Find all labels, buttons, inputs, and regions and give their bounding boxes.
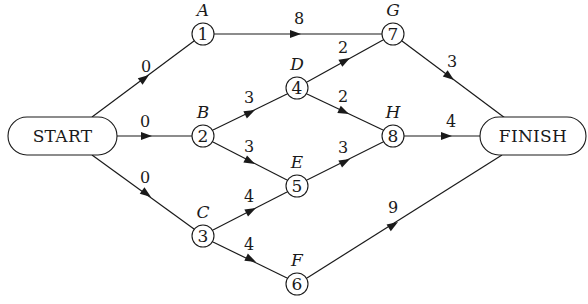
task-label: F <box>290 250 304 270</box>
task-label: A <box>195 0 209 20</box>
edge-weight: 3 <box>244 137 254 156</box>
edge-weight: 9 <box>388 198 398 217</box>
task-label: D <box>289 54 304 74</box>
arrowhead-icon <box>443 70 457 83</box>
edge-weight: 2 <box>338 87 348 106</box>
arrowhead-icon <box>244 254 257 266</box>
edge-weight: 4 <box>446 112 456 131</box>
edge-4-7: 2 <box>307 38 383 82</box>
edge-weight: 0 <box>140 112 150 131</box>
finish-label: FINISH <box>499 126 567 146</box>
node-number: 8 <box>388 126 399 146</box>
node-number: 5 <box>292 176 303 196</box>
edge-weight: 0 <box>140 168 150 187</box>
node-6: 6 F <box>286 250 308 295</box>
edge-start-1: 0 <box>92 41 194 117</box>
arrowhead-icon <box>338 155 351 167</box>
node-1: 1 A <box>192 0 214 45</box>
arrowhead-icon <box>244 204 257 216</box>
task-label: B <box>196 102 210 122</box>
start-terminal: START <box>8 117 117 155</box>
edge-weight: 0 <box>141 57 151 76</box>
edge-5-8: 3 <box>307 138 383 180</box>
node-number: 3 <box>198 226 209 246</box>
arrowhead-icon <box>337 106 350 118</box>
edge-start-2: 0 <box>117 112 192 140</box>
edge-1-7: 8 <box>214 9 382 38</box>
node-2: 2 B <box>192 102 214 147</box>
node-number: 2 <box>198 126 209 146</box>
edge-3-5: 4 <box>213 187 287 230</box>
node-number: 1 <box>198 24 209 44</box>
edge-weight: 4 <box>244 187 254 206</box>
edge-8-finish: 4 <box>404 112 480 140</box>
edge-4-8: 2 <box>307 87 383 130</box>
arrowhead-icon <box>243 155 256 167</box>
edge-weight: 3 <box>244 88 254 107</box>
node-7: 7 G <box>382 0 404 45</box>
start-label: START <box>33 126 93 146</box>
node-4: 4 D <box>286 54 308 99</box>
edge-7-finish: 3 <box>402 41 505 118</box>
node-number: 6 <box>292 274 303 294</box>
edge-weight: 3 <box>447 52 457 71</box>
arrowhead-icon <box>243 106 256 118</box>
task-label: G <box>386 0 400 20</box>
node-number: 7 <box>388 24 399 44</box>
arrowhead-icon <box>290 30 301 38</box>
edge-start-3: 0 <box>92 155 194 229</box>
task-label: E <box>290 152 304 172</box>
node-5: 5 E <box>286 152 308 197</box>
edge-6-finish: 9 <box>307 155 502 278</box>
edge-2-5: 3 <box>213 137 287 180</box>
node-number: 4 <box>292 78 303 98</box>
node-8: 8 H <box>382 102 404 147</box>
task-label: C <box>196 202 209 222</box>
arrowhead-icon <box>441 132 452 140</box>
edges: 0 0 0 8 3 3 <box>92 9 505 278</box>
finish-terminal: FINISH <box>480 117 586 155</box>
edge-weight: 4 <box>244 235 254 254</box>
activity-network-diagram: 0 0 0 8 3 3 <box>0 0 588 304</box>
task-label: H <box>385 102 402 122</box>
edge-weight: 2 <box>338 38 348 57</box>
node-3: 3 C <box>192 202 214 247</box>
edge-2-4: 3 <box>213 88 287 130</box>
edge-3-6: 4 <box>213 235 287 278</box>
arrowhead-icon <box>141 132 152 140</box>
edge-weight: 3 <box>338 138 348 157</box>
edge-weight: 8 <box>294 9 304 28</box>
